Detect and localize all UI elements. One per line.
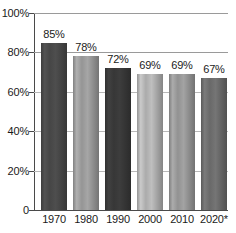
bar-1990[interactable]: [105, 68, 131, 210]
y-axis-label-80: 80%: [0, 47, 29, 58]
bar-value-label-2020: 67%: [195, 64, 233, 75]
y-axis-label-100: 100%: [0, 8, 29, 19]
bar-value-label-1980: 78%: [67, 42, 105, 53]
bar-1980[interactable]: [73, 56, 99, 210]
y-axis-labels: 100% 80% 60% 40% 20% 0: [0, 0, 29, 233]
y-axis-label-0: 0: [0, 205, 29, 216]
bar-2000[interactable]: [137, 74, 163, 210]
bar-chart: 100% 80% 60% 40% 20% 0 85% 78% 72%: [0, 0, 236, 233]
x-axis-label-2020: 2020*: [192, 213, 236, 226]
bar-2010[interactable]: [169, 74, 195, 210]
plot-area: 85% 78% 72% 69% 69% 67%: [34, 13, 228, 210]
x-axis-labels: 1970 1980 1990 2000 2010 2020*: [34, 213, 228, 233]
y-axis-label-60: 60%: [0, 87, 29, 98]
bar-1970[interactable]: [41, 43, 67, 210]
bar-2020[interactable]: [201, 78, 227, 210]
gridline-100: [34, 13, 228, 14]
x-axis-line: [34, 210, 228, 211]
y-axis-label-40: 40%: [0, 126, 29, 137]
bar-value-label-1970: 85%: [35, 29, 73, 40]
y-axis-label-20: 20%: [0, 166, 29, 177]
